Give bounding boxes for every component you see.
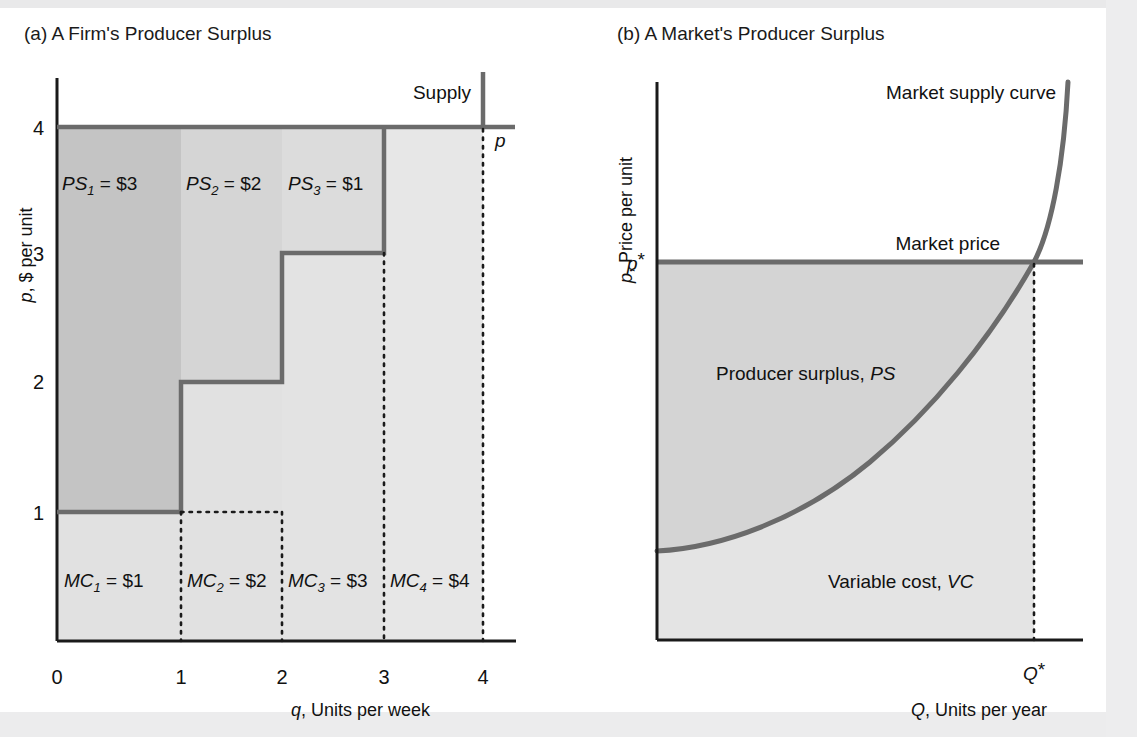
panel-a-y-axis-label: p, $ per unit [16,207,36,303]
panel-b-producer-surplus-annotation: Producer surplus, PS [716,363,896,384]
producer-surplus-figure: (a) A Firm's Producer Surplus [0,0,1137,737]
shade-band-4 [384,127,483,641]
panel-b: (b) A Market's Producer Surplus p, Price… [616,23,1083,720]
panel-b-variable-cost-annotation: Variable cost, VC [828,571,974,592]
panel-b-q-star-label: Q* [1023,659,1046,684]
panel-b-x-axis-label: Q, Units per year [911,700,1047,720]
panel-a-xtick-1: 1 [175,666,186,688]
panel-a-ytick-2: 2 [33,371,44,393]
shade-ps2 [181,127,282,380]
panel-a-price-label: p [494,130,506,151]
panel-a: (a) A Firm's Producer Surplus [16,23,516,720]
figure-root: (a) A Firm's Producer Surplus [0,0,1137,737]
shade-band-2 [181,380,282,641]
panel-a-title: (a) A Firm's Producer Surplus [24,23,272,44]
panel-b-p-star-label: p* [626,249,646,274]
panel-b-market-price-annotation: Market price [895,233,1000,254]
panel-a-xtick-4: 4 [477,666,488,688]
panel-a-supply-label: Supply [413,82,472,103]
panel-a-ytick-4: 4 [33,117,44,139]
panel-a-xtick-2: 2 [276,666,287,688]
panel-b-title: (b) A Market's Producer Surplus [617,23,885,44]
panel-a-x-axis-label: q, Units per week [291,700,431,720]
panel-a-ytick-1: 1 [33,502,44,524]
panel-b-supply-curve-annotation: Market supply curve [886,82,1056,103]
panel-a-xtick-3: 3 [378,666,389,688]
panel-a-xtick-0: 0 [51,666,62,688]
